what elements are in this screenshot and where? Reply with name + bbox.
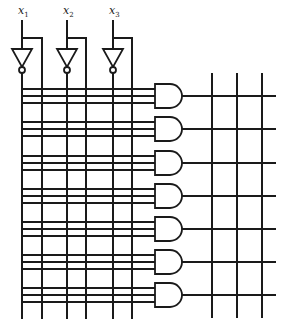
- inversion-bubble-icon: [64, 67, 70, 73]
- input-labels: x1x2x3: [18, 4, 120, 19]
- inversion-bubble-icon: [110, 67, 116, 73]
- and-gates: [155, 84, 182, 307]
- and-gate-icon: [155, 283, 182, 307]
- and-gate-icon: [155, 151, 182, 175]
- and-gate-icon: [155, 250, 182, 274]
- input-label-x3: x3: [109, 4, 120, 19]
- true-input-line: [113, 38, 132, 319]
- and-gate-icon: [155, 217, 182, 241]
- logic-diagram: x1x2x3: [0, 0, 287, 329]
- true-input-line: [22, 38, 42, 319]
- and-gate-icon: [155, 184, 182, 208]
- and-gate-icon: [155, 117, 182, 141]
- inverter-icon: [12, 49, 32, 67]
- input-label-x2: x2: [63, 4, 74, 19]
- input-label-x1: x1: [18, 4, 29, 19]
- output-lines: [182, 73, 276, 318]
- inversion-bubble-icon: [19, 67, 25, 73]
- inverter-icon: [57, 49, 77, 67]
- and-gate-icon: [155, 84, 182, 108]
- true-input-line: [67, 38, 86, 319]
- inverter-icon: [103, 49, 123, 67]
